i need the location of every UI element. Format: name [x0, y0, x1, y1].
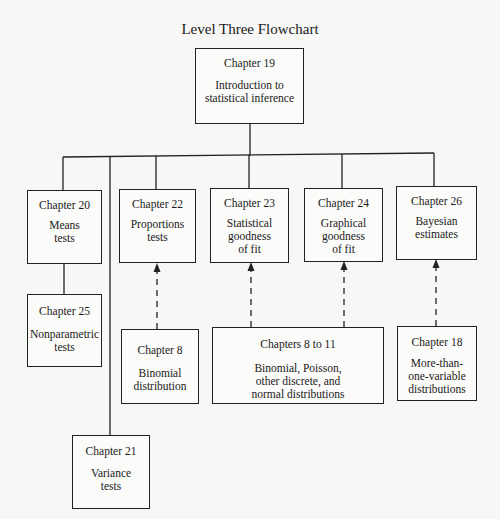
node-description: More-than- one-variable distributions [398, 357, 476, 396]
node-chapter-22: Chapter 22 Proportions tests [119, 189, 196, 263]
node-chapter-label: Chapter 23 [211, 197, 288, 210]
node-chapter-label: Chapter 18 [398, 336, 476, 349]
node-chapters-8-to-11: Chapters 8 to 11 Binomial, Poisson, othe… [212, 327, 384, 404]
node-chapter-25: Chapter 25 Nonparametric tests [27, 294, 102, 367]
node-description: Binomial, Poisson, other discrete, and n… [213, 362, 383, 401]
node-chapter-21: Chapter 21 Variance tests [72, 435, 150, 509]
node-chapter-label: Chapter 20 [28, 199, 101, 212]
arrowhead-ch22 [154, 263, 161, 272]
node-description: Graphical goodness of fit [305, 217, 382, 256]
arrowhead-ch26 [433, 259, 440, 268]
node-description: Introduction to statistical inference [196, 79, 303, 105]
node-description: Bayesian estimates [397, 215, 476, 241]
node-chapter-23: Chapter 23 Statistical goodness of fit [210, 188, 289, 263]
node-chapter-label: Chapters 8 to 11 [213, 338, 383, 351]
node-description: Proportions tests [120, 218, 195, 244]
node-chapter-label: Chapter 8 [122, 344, 198, 357]
node-chapter-label: Chapter 25 [28, 305, 101, 318]
node-chapter-label: Chapter 22 [120, 198, 195, 211]
node-chapter-label: Chapter 24 [305, 197, 382, 210]
node-chapter-label: Chapter 21 [73, 445, 149, 458]
node-chapter-26: Chapter 26 Bayesian estimates [396, 186, 477, 260]
node-chapter-8: Chapter 8 Binomial distribution [121, 329, 199, 404]
arrowhead-ch24 [341, 261, 348, 270]
node-chapter-20: Chapter 20 Means tests [27, 190, 102, 264]
node-description: Binomial distribution [122, 367, 198, 393]
node-chapter-label: Chapter 19 [196, 57, 303, 70]
node-description: Variance tests [73, 467, 149, 493]
arrowhead-ch23 [248, 262, 255, 271]
node-chapter-24: Chapter 24 Graphical goodness of fit [304, 188, 383, 262]
node-description: Nonparametric tests [28, 328, 101, 354]
node-chapter-label: Chapter 26 [397, 195, 476, 208]
node-chapter-19: Chapter 19 Introduction to statistical i… [195, 48, 304, 124]
node-description: Statistical goodness of fit [211, 217, 288, 256]
node-description: Means tests [28, 219, 101, 245]
node-chapter-18: Chapter 18 More-than- one-variable distr… [397, 326, 477, 401]
